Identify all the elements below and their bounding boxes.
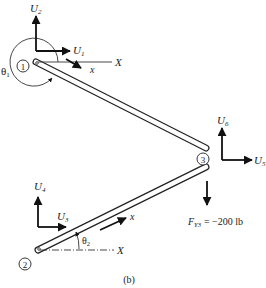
u6-label: U6	[217, 114, 229, 128]
local-x-label-top: x	[89, 64, 95, 75]
local-x-label-bottom: x	[129, 211, 135, 222]
figure-caption: (b)	[123, 274, 135, 286]
truss-diagram: X U2 U1 x 1 θ1 3 U6 U5 FY3= −200 lb U4	[0, 0, 266, 288]
node-1-label: 1	[21, 62, 26, 72]
u2-label: U2	[30, 2, 42, 16]
u5-label: U5	[254, 154, 266, 168]
load-label: FY3= −200 lb	[187, 216, 243, 228]
element-1-3-bar	[36, 62, 206, 148]
node-2-label: 2	[23, 260, 28, 270]
u4-label: U4	[34, 180, 46, 194]
theta1-label: θ1	[1, 65, 10, 79]
node-3-label: 3	[201, 155, 206, 165]
global-x-label-bottom: X	[116, 244, 125, 256]
global-x-label-top: X	[114, 56, 123, 68]
node-2-group: U4 U3 x X θ2 2	[19, 180, 135, 270]
theta2-label: θ2	[82, 235, 90, 247]
u1-label: U1	[73, 44, 84, 58]
u3-label: U3	[57, 210, 69, 224]
local-x-arrow-top	[66, 59, 81, 68]
element-2-3-bar	[38, 167, 206, 250]
